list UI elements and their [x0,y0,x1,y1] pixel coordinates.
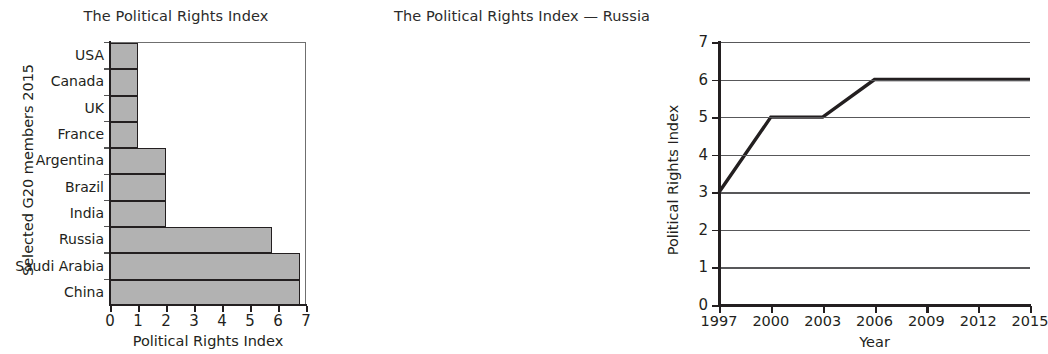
bar-row [110,148,305,174]
bar-argentina [110,148,166,174]
bar-x-tick-label: 5 [245,312,255,330]
line-chart-x-axis-title: Year [719,334,1030,350]
line-path-russia [719,80,1030,193]
line-x-tick [823,306,825,313]
bar-france [110,122,138,148]
bar-india [110,201,166,227]
line-gridline [719,230,1030,231]
bar-x-tick-label: 1 [133,312,143,330]
line-chart-plot-area [719,42,1030,305]
bar-usa [110,43,138,69]
bar-canada [110,69,138,95]
line-y-tick-label: 2 [688,221,708,239]
bar-category-label: USA [75,47,104,63]
line-chart-y-axis-line [718,41,721,307]
bar-category-label: France [57,126,104,142]
bar-chart-x-axis-title: Political Rights Index [110,333,306,349]
line-y-tick-label: 0 [688,296,708,314]
bar-china [110,280,300,306]
line-y-tick-label: 7 [688,33,708,51]
line-x-tick [719,306,721,313]
line-x-tick-label: 2015 [1012,313,1048,329]
panel-bar-chart: The Political Rights Index Selected G20 … [0,0,352,354]
bar-saudi-arabia [110,253,300,279]
line-chart-y-axis-title: Political Rights Index [665,80,681,280]
bar-chart-plot-area [110,42,306,305]
bar-category-label: Canada [51,73,104,89]
line-x-tick [978,306,980,313]
line-gridline [719,267,1030,268]
line-y-tick-label: 1 [688,258,708,276]
line-x-tick-label: 2012 [960,313,997,329]
bar-row [110,43,305,69]
line-y-tick-label: 4 [688,146,708,164]
bar-x-tick-label: 7 [301,312,311,330]
bar-uk [110,96,138,122]
panel-line-chart: The Political Rights Index — Russia Poli… [352,0,704,354]
bar-chart-y-axis-line [109,41,111,306]
bar-category-label: India [70,205,104,221]
line-x-tick [771,306,773,313]
line-gridline [719,117,1030,118]
bar-row [110,96,305,122]
bar-chart-category-labels: USACanadaUKFranceArgentinaBrazilIndiaRus… [0,0,104,354]
bar-x-tick-label: 0 [105,312,115,330]
bar-category-label: UK [85,100,104,116]
line-x-tick-label: 2009 [908,313,945,329]
line-gridline [719,192,1030,193]
line-x-tick [875,306,877,313]
bar-category-label: Russia [59,231,104,247]
line-x-tick-label: 2006 [856,313,893,329]
line-x-tick-label: 2000 [752,313,789,329]
bar-category-label: Brazil [65,179,104,195]
bar-row [110,201,305,227]
bar-row [110,122,305,148]
bar-x-tick-label: 6 [273,312,283,330]
bar-row [110,227,305,253]
bar-category-label: Argentina [36,152,104,168]
bar-row [110,280,305,306]
bar-row [110,174,305,200]
bar-brazil [110,174,166,200]
line-gridline [719,80,1030,81]
bar-x-tick-label: 3 [189,312,199,330]
bar-category-label: Saudi Arabia [15,258,104,274]
line-chart-series-russia [719,42,1030,305]
bar-x-tick-label: 2 [161,312,171,330]
bar-row [110,253,305,279]
line-gridline [719,42,1030,43]
line-y-tick-label: 6 [688,71,708,89]
bar-row [110,69,305,95]
bar-russia [110,227,272,253]
line-gridline [719,155,1030,156]
bar-x-tick-label: 4 [217,312,227,330]
line-x-tick-label: 1997 [701,313,738,329]
bar-category-label: China [64,284,104,300]
line-x-tick-label: 2003 [804,313,841,329]
line-y-tick-label: 3 [688,183,708,201]
line-y-tick-label: 5 [688,108,708,126]
line-x-tick [926,306,928,313]
line-x-tick [1030,306,1032,313]
line-chart-title: The Political Rights Index — Russia [352,8,692,24]
